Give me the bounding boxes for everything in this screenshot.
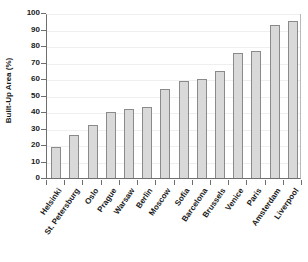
y-axis-tick-label-wrap: 80 xyxy=(16,42,40,50)
bar xyxy=(160,89,170,178)
bar xyxy=(251,51,261,178)
y-axis-tick-label-wrap: 20 xyxy=(16,141,40,149)
x-axis-tick xyxy=(101,180,102,185)
bar xyxy=(69,135,79,178)
x-axis-tick xyxy=(174,180,175,185)
y-axis-tick-label-wrap: 10 xyxy=(16,158,40,166)
gridline xyxy=(47,14,300,15)
x-axis-tick xyxy=(228,180,229,185)
x-axis-tick xyxy=(64,180,65,185)
y-axis-title-label: Built-Up Area (%) xyxy=(5,57,14,122)
gridline xyxy=(47,47,300,48)
x-axis-tick xyxy=(155,180,156,185)
bar xyxy=(106,112,116,178)
x-axis-tick xyxy=(210,180,211,185)
gridline xyxy=(47,97,300,98)
y-axis-tick-label: 80 xyxy=(18,42,40,50)
gridline xyxy=(47,113,300,114)
gridline xyxy=(47,31,300,32)
bar xyxy=(51,147,61,178)
x-axis-tick xyxy=(192,180,193,185)
y-axis-tick-label: 60 xyxy=(18,75,40,83)
y-axis-tick-label-wrap: 30 xyxy=(16,125,40,133)
y-axis-tick-label: 100 xyxy=(18,9,40,17)
bar xyxy=(179,81,189,178)
gridline xyxy=(47,80,300,81)
bar xyxy=(88,125,98,178)
y-axis-tick-label-wrap: 100 xyxy=(16,9,40,17)
x-axis-tick xyxy=(265,180,266,185)
y-axis-tick-label: 0 xyxy=(18,174,40,182)
bar-chart: Built-Up Area (%) 0102030405060708090100… xyxy=(0,0,308,262)
y-axis-tick-label-wrap: 50 xyxy=(16,92,40,100)
bar xyxy=(197,79,207,178)
x-axis-tick xyxy=(119,180,120,185)
y-axis-tick-label-wrap: 40 xyxy=(16,108,40,116)
gridline xyxy=(47,146,300,147)
gridline xyxy=(47,130,300,131)
y-axis-tick-label: 10 xyxy=(18,158,40,166)
bar xyxy=(124,109,134,178)
bar xyxy=(233,53,243,178)
bar xyxy=(215,71,225,178)
bar xyxy=(270,25,280,178)
y-axis-tick-label: 50 xyxy=(18,92,40,100)
y-axis-tick-label-wrap: 90 xyxy=(16,26,40,34)
gridline xyxy=(47,163,300,164)
y-axis-tick-label-wrap: 0 xyxy=(16,174,40,182)
bar xyxy=(142,107,152,178)
x-axis-tick xyxy=(46,180,47,185)
x-axis-tick xyxy=(137,180,138,185)
x-axis-tick xyxy=(301,180,302,185)
y-axis-tick-label: 90 xyxy=(18,26,40,34)
y-axis-tick-label-wrap: 70 xyxy=(16,59,40,67)
x-axis-tick xyxy=(283,180,284,185)
x-axis-tick xyxy=(246,180,247,185)
bar xyxy=(288,21,298,178)
y-axis-tick-label: 70 xyxy=(18,59,40,67)
y-axis-tick-label: 40 xyxy=(18,108,40,116)
plot-area xyxy=(46,14,301,179)
gridline xyxy=(47,64,300,65)
y-axis-tick-label: 20 xyxy=(18,141,40,149)
y-axis-tick-label-wrap: 60 xyxy=(16,75,40,83)
x-axis-tick xyxy=(82,180,83,185)
y-axis-tick-label: 30 xyxy=(18,125,40,133)
